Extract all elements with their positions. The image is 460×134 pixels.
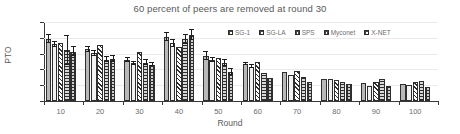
x-tick-label: 70: [279, 107, 315, 116]
bar: [149, 65, 154, 101]
bar: [131, 63, 136, 101]
x-tick-mark: [438, 101, 439, 105]
error-bar-cap: [183, 43, 188, 44]
bar: [189, 35, 194, 101]
error-bar-cap: [85, 46, 90, 47]
bar: [361, 83, 366, 101]
bar: [176, 47, 181, 101]
bar: [261, 73, 266, 101]
bar-group: [164, 22, 194, 101]
error-bar-cap: [149, 62, 154, 63]
error-bar-cap: [110, 55, 115, 56]
error-bar-cap: [189, 39, 194, 40]
x-tick-label: 60: [240, 107, 276, 116]
error-bar-cap: [46, 34, 51, 35]
bar-group: [85, 22, 115, 101]
x-tick-label: 20: [82, 107, 118, 116]
error-bar-cap: [52, 41, 57, 42]
error-bar-cap: [85, 51, 90, 52]
bar: [52, 44, 57, 101]
error-bar-cap: [222, 59, 227, 60]
error-bar-cap: [222, 65, 227, 66]
bar: [406, 85, 411, 101]
bar-group: [243, 22, 273, 101]
error-bar-cap: [149, 65, 154, 66]
error-bar-cap: [183, 34, 188, 35]
bar: [294, 71, 299, 101]
error-bar-cap: [104, 56, 109, 57]
x-tick-label: 30: [122, 107, 158, 116]
bar: [321, 79, 326, 101]
bar-group: [361, 22, 391, 101]
bar: [282, 72, 287, 101]
x-tick-label: 40: [161, 107, 197, 116]
bar: [222, 63, 227, 101]
error-bar-cap: [143, 64, 148, 65]
bar: [301, 77, 306, 101]
bar: [400, 84, 405, 101]
x-tick-mark: [162, 101, 163, 105]
bar: [255, 62, 260, 102]
error-bar-cap: [110, 61, 115, 62]
x-tick-mark: [320, 101, 321, 105]
bar: [340, 82, 345, 101]
bar-group: [282, 22, 312, 101]
error-bar-cap: [189, 29, 194, 30]
bar: [85, 49, 90, 101]
plot-area: [44, 22, 438, 101]
x-tick-label: 100: [397, 107, 433, 116]
error-bar-cap: [125, 57, 130, 58]
bar: [413, 82, 418, 101]
error-bar-cap: [91, 50, 96, 51]
error-bar-cap: [164, 32, 169, 33]
bar: [419, 81, 424, 101]
error-bar-cap: [71, 55, 76, 56]
error-bar-cap: [249, 67, 254, 68]
error-bar-cap: [131, 64, 136, 65]
bar: [216, 58, 221, 101]
bar: [373, 82, 378, 101]
y-tick-mark: [40, 38, 44, 39]
error-bar-cap: [203, 59, 208, 60]
error-bar-cap: [131, 61, 136, 62]
error-bar-cap: [46, 42, 51, 43]
y-tick-mark: [40, 85, 44, 86]
bar: [346, 84, 351, 101]
error-bar-cap: [228, 68, 233, 69]
bar: [182, 39, 187, 101]
error-bar-cap: [203, 51, 208, 52]
bar: [124, 60, 129, 101]
bar: [307, 82, 312, 101]
error-bar-cap: [164, 40, 169, 41]
error-bar-cap: [125, 61, 130, 62]
error-bar-cap: [170, 39, 175, 40]
x-tick-mark: [359, 101, 360, 105]
error-bar-cap: [143, 59, 148, 60]
bar: [164, 37, 169, 101]
bar: [425, 87, 430, 101]
x-tick-mark: [280, 101, 281, 105]
x-tick-label: 80: [319, 107, 355, 116]
error-bar-cap: [91, 55, 96, 56]
bar: [110, 59, 115, 101]
error-bar-cap: [243, 62, 248, 63]
bar: [249, 67, 254, 101]
bar: [70, 52, 75, 101]
x-tick-mark: [83, 101, 84, 105]
x-tick-label: 10: [43, 107, 79, 116]
bar: [228, 72, 233, 101]
error-bar-cap: [210, 57, 215, 58]
bar: [209, 60, 214, 101]
x-axis-label: Round: [0, 118, 460, 128]
bar: [170, 43, 175, 101]
error-bar: [67, 36, 68, 64]
bar: [267, 78, 272, 101]
x-tick-label: 50: [200, 107, 236, 116]
bar-group: [124, 22, 154, 101]
x-tick-mark: [44, 101, 45, 105]
bar: [58, 43, 63, 101]
bar-group: [321, 22, 351, 101]
error-bar-cap: [210, 61, 215, 62]
x-tick-mark: [399, 101, 400, 105]
y-axis-label: PTO: [3, 25, 13, 85]
